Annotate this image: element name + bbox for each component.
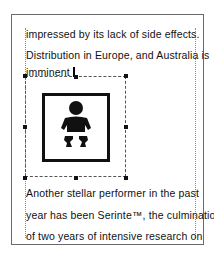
resize-handle-top-left[interactable]: [23, 74, 27, 78]
text-line[interactable]: impressed by its lack of side effects.: [26, 28, 200, 40]
resize-handle-bottom-right[interactable]: [124, 176, 128, 180]
resize-handle-left[interactable]: [23, 125, 27, 129]
resize-handle-right[interactable]: [124, 125, 128, 129]
text-line[interactable]: of two years of intensive research on: [26, 230, 203, 242]
text-line[interactable]: Another stellar performer in the past: [26, 187, 199, 199]
resize-handle-top[interactable]: [74, 75, 78, 79]
text-line[interactable]: Distribution in Europe, and Australia is: [26, 49, 209, 61]
baby-changing-icon: [45, 96, 107, 159]
resize-handle-top-right[interactable]: [124, 74, 128, 78]
inserted-picture[interactable]: [42, 93, 110, 162]
text-line[interactable]: year has been Serinte™, the culmination: [26, 209, 214, 221]
resize-handle-bottom-left[interactable]: [23, 176, 27, 180]
resize-handle-bottom[interactable]: [74, 176, 78, 180]
